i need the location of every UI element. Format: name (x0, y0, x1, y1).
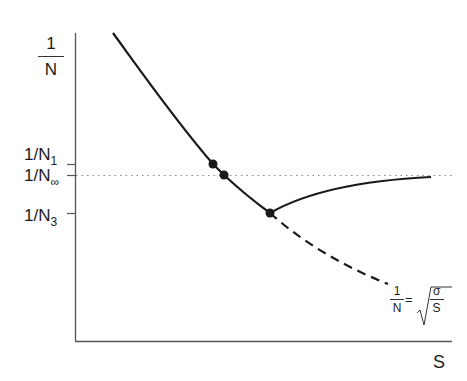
point-ninf (220, 171, 229, 180)
formula-equals: = (405, 292, 413, 307)
tick-label-n1: 1/N1 (24, 146, 57, 167)
point-n3 (266, 209, 275, 218)
y-axis-label: 1 N (38, 35, 64, 78)
sqrt-formula: 1 N = σ S (390, 285, 444, 314)
formula-rhs: σ S (430, 285, 444, 314)
y-axis-label-denominator: N (45, 61, 57, 78)
dashed-sqrt-curve (270, 213, 388, 284)
tick-label-ninf: 1/N∞ (24, 167, 59, 188)
main-curve (113, 33, 270, 213)
y-axis-label-numerator: 1 (46, 35, 55, 52)
fraction-bar (38, 56, 64, 57)
point-n1 (209, 160, 218, 169)
x-axis-label: S (433, 353, 445, 371)
upper-branch-curve (270, 177, 431, 213)
diagram-canvas (0, 0, 467, 381)
tick-label-n3: 1/N3 (24, 207, 57, 228)
formula-lhs: 1 N (390, 285, 404, 314)
